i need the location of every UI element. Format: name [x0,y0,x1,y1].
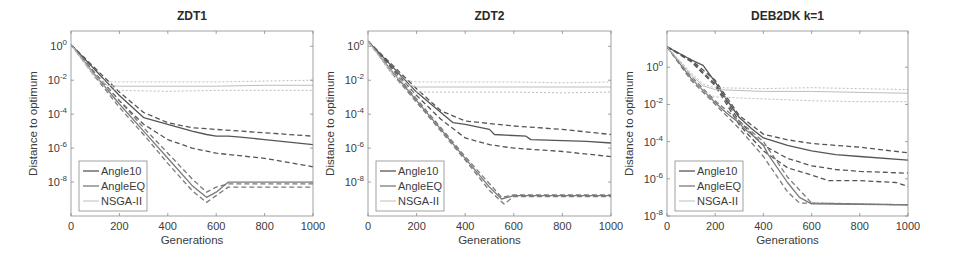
chart-title: ZDT1 [177,9,207,23]
x-tick-label: 800 [553,220,571,232]
x-axis-label: Generations [161,234,224,246]
y-tick-label: 10-2 [48,72,68,86]
chart-title: DEB2DK k=1 [751,9,824,23]
x-tick-label: 600 [505,220,523,232]
x-tick-label: 800 [255,220,273,232]
series-line-nsga-ii [71,45,313,92]
x-axis-label: Generations [458,234,521,246]
legend-entry-angle10: Angle10 [697,165,737,177]
figure-canvas: ZDT10200400600800100010010-210-410-610-8… [0,0,953,267]
series-line-nsga-ii [667,47,908,90]
y-tick-label: 100 [347,38,364,52]
x-axis-label: Generations [756,234,819,246]
y-tick-label: 10-4 [345,106,365,120]
y-axis-label: Distance to optimum [623,71,635,176]
x-tick-label: 200 [706,220,724,232]
y-tick-label: 10-4 [48,106,68,120]
y-tick-label: 10-6 [644,171,664,185]
y-tick-label: 10-2 [644,96,664,110]
legend-entry-angle10: Angle10 [398,165,438,177]
subplot-zdt2: ZDT20200400600800100010010-210-410-610-8… [324,9,623,246]
legend-entry-angle10: Angle10 [101,165,141,177]
y-axis-label: Distance to optimum [324,71,336,176]
legend-entry-angleeq: AngleEQ [697,180,741,192]
y-tick-label: 10-6 [48,140,68,154]
series-line-angle10 [71,45,313,145]
series-line-angle10 [368,41,611,156]
x-tick-label: 200 [407,220,425,232]
legend-entry-angleeq: AngleEQ [398,180,442,192]
figure: ZDT10200400600800100010010-210-410-610-8… [0,0,953,267]
legend-entry-angleeq: AngleEQ [101,180,145,192]
legend-entry-nsga-ii: NSGA-II [697,195,738,207]
series-line-angle10 [667,47,908,160]
y-tick-label: 10-6 [345,140,365,154]
y-tick-label: 100 [50,38,67,52]
x-tick-label: 0 [365,220,371,232]
x-tick-label: 600 [207,220,225,232]
y-tick-label: 10-2 [345,72,365,86]
x-tick-label: 400 [159,220,177,232]
y-tick-label: 100 [646,59,663,73]
x-tick-label: 0 [664,220,670,232]
y-tick-label: 10-8 [48,174,68,188]
x-tick-label: 1000 [896,220,920,232]
legend: Angle10AngleEQNSGA-II [79,161,147,211]
series-line-nsga-ii [667,47,908,102]
legend: Angle10AngleEQNSGA-II [675,161,743,211]
x-tick-label: 0 [68,220,74,232]
subplot-deb2dk-k-1: DEB2DK k=10200400600800100010010-210-410… [623,9,920,246]
legend: Angle10AngleEQNSGA-II [376,161,444,211]
x-tick-label: 1000 [301,220,325,232]
series-line-angle10 [667,47,908,153]
x-tick-label: 800 [851,220,869,232]
series-line-nsga-ii [71,45,313,82]
chart-title: ZDT2 [475,9,505,23]
x-tick-label: 200 [110,220,128,232]
y-axis-label: Distance to optimum [27,71,39,176]
y-tick-label: 10-4 [644,134,664,148]
x-tick-label: 1000 [599,220,623,232]
subplot-zdt1: ZDT10200400600800100010010-210-410-610-8… [27,9,325,246]
x-tick-label: 400 [754,220,772,232]
x-tick-label: 400 [456,220,474,232]
legend-entry-nsga-ii: NSGA-II [101,195,142,207]
y-tick-label: 10-8 [644,208,664,222]
y-tick-label: 10-8 [345,174,365,188]
series-line-angle10 [71,45,313,167]
legend-entry-nsga-ii: NSGA-II [398,195,439,207]
x-tick-label: 600 [802,220,820,232]
